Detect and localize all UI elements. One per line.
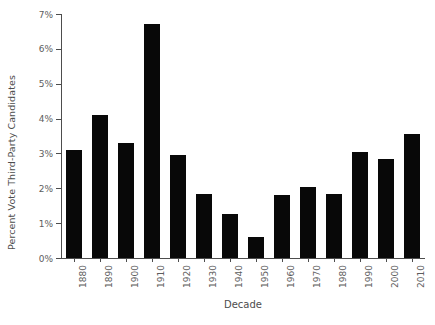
x-tick xyxy=(308,258,309,262)
bar xyxy=(326,194,342,258)
y-tick: 6% xyxy=(56,49,61,50)
y-tick-label: 2% xyxy=(39,184,53,194)
x-tick-label: 1950 xyxy=(260,265,270,288)
y-tick-label: 0% xyxy=(39,254,53,264)
y-tick-label: 3% xyxy=(39,149,53,159)
x-tick-label: 1880 xyxy=(78,265,88,288)
x-tick xyxy=(282,258,283,262)
x-tick-label: 1960 xyxy=(286,265,296,288)
x-tick-label: 1970 xyxy=(312,265,322,288)
y-tick: 5% xyxy=(56,84,61,85)
bar xyxy=(404,134,420,258)
y-axis-line xyxy=(61,14,62,258)
bar xyxy=(196,194,212,258)
x-tick xyxy=(152,258,153,262)
x-axis-line xyxy=(61,258,425,259)
x-axis-title: Decade xyxy=(61,299,425,310)
bar xyxy=(274,195,290,258)
bar xyxy=(170,155,186,258)
x-tick-label: 1910 xyxy=(156,265,166,288)
x-tick-label: 2010 xyxy=(416,265,426,288)
x-tick xyxy=(126,258,127,262)
y-tick-label: 1% xyxy=(39,219,53,229)
x-tick-label: 1940 xyxy=(234,265,244,288)
bar xyxy=(352,152,368,258)
bar xyxy=(118,143,134,258)
x-tick-label: 1930 xyxy=(208,265,218,288)
y-tick: 1% xyxy=(56,223,61,224)
y-axis-title: Percent Vote Third-Party Candidates xyxy=(0,0,22,325)
x-tick xyxy=(178,258,179,262)
y-tick-label: 5% xyxy=(39,79,53,89)
bar xyxy=(248,237,264,258)
x-tick-label: 1900 xyxy=(130,265,140,288)
x-tick-label: 2000 xyxy=(390,265,400,288)
x-tick xyxy=(360,258,361,262)
x-tick xyxy=(256,258,257,262)
bar xyxy=(222,214,238,258)
x-tick-label: 1920 xyxy=(182,265,192,288)
x-tick xyxy=(386,258,387,262)
x-tick xyxy=(230,258,231,262)
x-tick-label: 1890 xyxy=(104,265,114,288)
plot-area: 0%1%2%3%4%5%6%7% 18801890190019101920193… xyxy=(61,14,425,258)
y-tick-label: 4% xyxy=(39,114,53,124)
y-tick: 4% xyxy=(56,119,61,120)
bar xyxy=(92,115,108,258)
x-tick xyxy=(204,258,205,262)
y-tick-label: 6% xyxy=(39,44,53,54)
bar xyxy=(378,159,394,258)
y-tick: 0% xyxy=(56,258,61,259)
y-tick: 3% xyxy=(56,153,61,154)
x-tick xyxy=(100,258,101,262)
bar-chart: Percent Vote Third-Party Candidates 0%1%… xyxy=(0,0,435,325)
x-tick xyxy=(334,258,335,262)
x-tick xyxy=(74,258,75,262)
y-tick-label: 7% xyxy=(39,10,53,20)
bar xyxy=(66,150,82,258)
y-tick: 2% xyxy=(56,188,61,189)
y-tick: 7% xyxy=(56,14,61,15)
x-tick-label: 1990 xyxy=(364,265,374,288)
x-tick-label: 1980 xyxy=(338,265,348,288)
bar xyxy=(300,187,316,258)
bar xyxy=(144,24,160,258)
x-tick xyxy=(412,258,413,262)
